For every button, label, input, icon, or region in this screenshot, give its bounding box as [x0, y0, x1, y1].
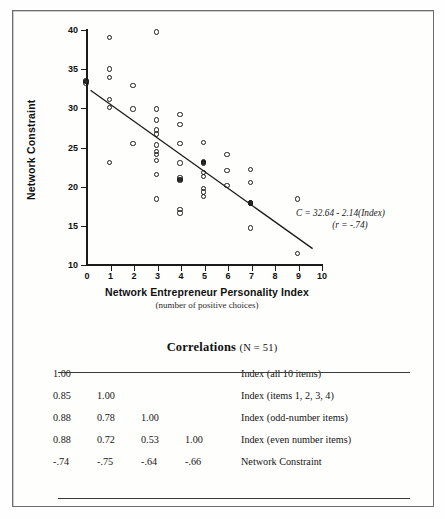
x-tick-label: 3: [150, 271, 166, 281]
y-tick: [81, 148, 86, 149]
y-axis-line: [86, 29, 88, 266]
scatter-point: [248, 180, 253, 185]
table-row: 1.00Index (all 10 items): [49, 363, 395, 385]
y-tick-label: 15: [52, 221, 78, 231]
table-cell-c4: [181, 363, 225, 385]
x-tick-label: 6: [220, 271, 236, 281]
scatter-point: [107, 35, 112, 40]
x-axis-title: Network Entrepreneur Personality Index: [47, 286, 367, 298]
table-row: 0.880.781.00Index (odd-number items): [49, 407, 395, 429]
table-cell-c3: [137, 363, 181, 385]
scatter-point: [177, 122, 182, 127]
table-cell-c4: -.66: [181, 450, 225, 472]
x-tick-label: 7: [244, 271, 260, 281]
scatter-point: [154, 142, 159, 147]
scatter-point: [177, 160, 182, 165]
scatter-chart: 10152025303540 012345678910 Network Cons…: [0, 0, 445, 320]
y-tick: [81, 69, 86, 70]
table-cell-c4: [181, 385, 225, 407]
scatter-point: [107, 97, 112, 102]
table-cell-c1: 1.00: [49, 363, 93, 385]
y-tick: [81, 226, 86, 227]
scatter-point: [107, 105, 112, 110]
scatter-point: [154, 158, 159, 163]
y-tick: [81, 265, 86, 266]
scatter-point: [248, 167, 253, 172]
scatter-point: [177, 177, 182, 182]
table-cell-c4: [181, 407, 225, 429]
correlations-table-body: 1.00Index (all 10 items)0.851.00Index (i…: [49, 363, 395, 472]
scatter-point: [154, 131, 159, 136]
correlations-table-section: Correlations (N = 51) 1.00Index (all 10 …: [12, 340, 432, 472]
table-cell-label: Index (items 1, 2, 3, 4): [225, 385, 395, 407]
scatter-point: [295, 251, 300, 256]
scatter-point: [107, 160, 112, 165]
table-cell-c3: 0.53: [137, 428, 181, 450]
scatter-point: [177, 210, 182, 215]
y-tick-label: 10: [52, 260, 78, 270]
x-tick-label: 5: [197, 271, 213, 281]
table-rule-bottom: [58, 498, 410, 499]
y-tick-label: 20: [52, 182, 78, 192]
table-cell-c2: 1.00: [93, 385, 137, 407]
scatter-point: [154, 106, 159, 111]
table-cell-c3: 1.00: [137, 407, 181, 429]
table-cell-c3: [137, 385, 181, 407]
x-tick-label: 8: [267, 271, 283, 281]
scatter-point: [130, 83, 135, 88]
scatter-point: [201, 174, 206, 179]
scatter-point: [201, 194, 206, 199]
y-axis-title: Network Constraint: [23, 60, 39, 240]
x-tick-label: 10: [314, 271, 330, 281]
scatter-point: [154, 196, 159, 201]
scatter-point: [177, 141, 182, 146]
x-tick-label: 1: [103, 271, 119, 281]
correlations-table-title: Correlations (N = 51): [12, 340, 432, 355]
table-cell-c1: 0.85: [49, 385, 93, 407]
y-tick-label: 30: [52, 103, 78, 113]
table-cell-c2: -.75: [93, 450, 137, 472]
y-tick: [81, 108, 86, 109]
scatter-point: [201, 140, 206, 145]
scatter-point: [130, 141, 135, 146]
table-rule-top: [58, 372, 410, 373]
scatter-point: [130, 106, 135, 111]
x-tick-label: 4: [173, 271, 189, 281]
scatter-point: [248, 225, 253, 230]
table-cell-c2: 0.78: [93, 407, 137, 429]
table-cell-c4: 1.00: [181, 428, 225, 450]
scatter-point: [154, 29, 159, 34]
y-tick-label: 35: [52, 64, 78, 74]
table-row: -.74-.75-.64-.66Network Constraint: [49, 450, 395, 472]
table-row: 0.880.720.531.00Index (even number items…: [49, 428, 395, 450]
correlations-table: 1.00Index (all 10 items)0.851.00Index (i…: [49, 363, 395, 472]
scatter-point: [154, 152, 159, 157]
table-cell-c1: 0.88: [49, 407, 93, 429]
table-cell-c2: [93, 363, 137, 385]
table-title-text: Correlations: [167, 340, 237, 354]
y-tick: [81, 187, 86, 188]
table-cell-c1: 0.88: [49, 428, 93, 450]
scatter-point: [224, 183, 229, 188]
x-tick-label: 2: [126, 271, 142, 281]
table-cell-label: Index (all 10 items): [225, 363, 395, 385]
scatter-point: [154, 172, 159, 177]
x-tick-label: 9: [291, 271, 307, 281]
scatter-point: [154, 117, 159, 122]
table-cell-label: Network Constraint: [225, 450, 395, 472]
table-cell-c1: -.74: [49, 450, 93, 472]
table-cell-c2: 0.72: [93, 428, 137, 450]
scatter-point: [248, 200, 253, 205]
scatter-point: [83, 79, 88, 84]
x-axis-subtitle: (number of positive choices): [47, 300, 367, 310]
equation-line-1: C = 32.64 - 2.14(Index): [296, 208, 385, 218]
table-row: 0.851.00Index (items 1, 2, 3, 4): [49, 385, 395, 407]
figure-scanned-page: 10152025303540 012345678910 Network Cons…: [0, 0, 445, 519]
scatter-point: [107, 75, 112, 80]
equation-line-2: (r = -.74): [296, 219, 404, 231]
scatter-point: [224, 152, 229, 157]
y-tick-label: 40: [52, 25, 78, 35]
scatter-point: [177, 112, 182, 117]
table-cell-label: Index (odd-number items): [225, 407, 395, 429]
x-tick-label: 0: [79, 271, 95, 281]
